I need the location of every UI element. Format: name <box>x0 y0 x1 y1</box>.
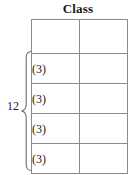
class-table-body: (3) (3) (3) (3) <box>32 20 128 174</box>
brace-total-label: 12 <box>0 100 19 112</box>
table-row: (3) <box>32 114 128 144</box>
cell-right-4 <box>80 144 128 174</box>
class-frequency-figure: Class (3) (3) (3) <box>0 0 130 175</box>
cell-left-1: (3) <box>32 54 80 84</box>
cell-right-1 <box>80 54 128 84</box>
header-cell-right <box>80 20 128 54</box>
table-header-row <box>32 20 128 54</box>
curly-brace-left-icon <box>20 50 32 172</box>
class-table: (3) (3) (3) (3) <box>31 19 125 170</box>
cell-right-2 <box>80 84 128 114</box>
curly-brace-left-icon-svg <box>20 50 32 172</box>
cell-left-4: (3) <box>32 144 80 174</box>
cell-left-3: (3) <box>32 114 80 144</box>
table-row: (3) <box>32 54 128 84</box>
class-table-grid: (3) (3) (3) (3) <box>31 19 128 174</box>
header-cell-left <box>32 20 80 54</box>
table-row: (3) <box>32 84 128 114</box>
figure-title: Class <box>31 1 125 17</box>
table-row: (3) <box>32 144 128 174</box>
cell-left-2: (3) <box>32 84 80 114</box>
cell-right-3 <box>80 114 128 144</box>
